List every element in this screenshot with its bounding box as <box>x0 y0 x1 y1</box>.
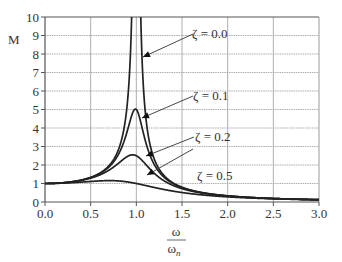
axes <box>41 17 319 206</box>
frequency-response-chart: ζ = 0.0ζ = 0.1ζ = 0.2ζ = 0.5 01234567891… <box>0 0 342 262</box>
x-tick-label: 0.0 <box>37 206 53 221</box>
y-tick-label: 7 <box>33 65 40 80</box>
annotation-leader <box>143 34 193 57</box>
annotation-label: ζ = 0.5 <box>197 168 232 183</box>
x-tick-label: 2.5 <box>265 206 281 221</box>
y-tick-label: 9 <box>33 28 40 43</box>
annotation-leader <box>142 96 193 118</box>
x-tick-label: 3.0 <box>311 206 327 221</box>
y-tick-label: 3 <box>33 139 40 154</box>
x-axis-label-denominator: ωn <box>167 241 181 258</box>
x-tick-label: 2.0 <box>220 206 236 221</box>
x-axis-label-numerator: ω <box>172 224 181 239</box>
annotation-label: ζ = 0.1 <box>193 88 228 103</box>
annotation-label: ζ = 0.2 <box>195 129 230 144</box>
y-tick-label: 5 <box>33 102 40 117</box>
x-tick-label: 0.5 <box>83 206 99 221</box>
y-tick-label: 2 <box>33 158 40 173</box>
x-axis-label: ω ωn <box>167 224 186 258</box>
y-tick-label: 1 <box>33 176 40 191</box>
y-axis-label: M <box>8 32 20 47</box>
x-tick-label: 1.5 <box>174 206 190 221</box>
y-tick-label: 4 <box>33 121 40 136</box>
grid-lines <box>45 17 319 202</box>
y-tick-label: 8 <box>33 47 40 62</box>
x-tick-label: 1.0 <box>128 206 144 221</box>
annotation-label: ζ = 0.0 <box>192 26 227 41</box>
y-tick-label: 10 <box>26 10 39 25</box>
y-tick-label: 6 <box>33 84 40 99</box>
annotations: ζ = 0.0ζ = 0.1ζ = 0.2ζ = 0.5 <box>142 26 232 183</box>
